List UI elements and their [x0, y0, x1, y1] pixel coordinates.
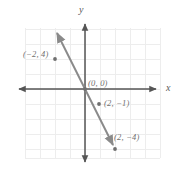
y-axis-label: y: [79, 5, 83, 15]
point-label-2-neg1: (2, −1): [104, 99, 130, 108]
data-point-0-0: [83, 87, 87, 91]
data-point-2-neg1: [97, 102, 101, 106]
grid-lines: [25, 28, 160, 158]
point-label-neg2-4: (−2, 4): [23, 50, 49, 59]
point-label-2-neg4: (2, −4): [114, 133, 140, 142]
data-point-neg2-4: [53, 57, 57, 61]
x-axis-label: x: [166, 83, 170, 93]
coordinate-plane-figure: (−2, 4) (0, 0) (2, −1) (2, −4) y x: [0, 0, 179, 178]
graph-canvas: [0, 0, 179, 178]
point-label-origin: (0, 0): [88, 79, 108, 88]
data-point-2-neg4: [113, 147, 117, 151]
